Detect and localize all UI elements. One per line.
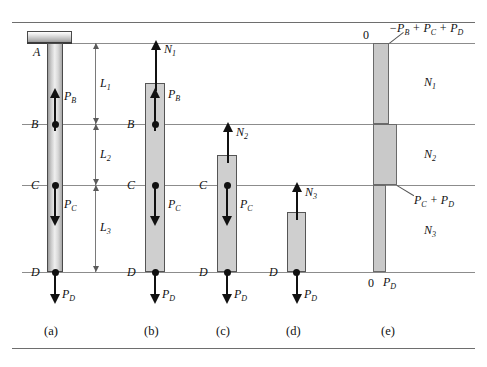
tick-D-d [280, 272, 286, 273]
axial-diagram-block-N3 [373, 185, 386, 272]
caption-c: (c) [216, 325, 230, 338]
figure-axial-force-diagram: A B C D PB PC PD L1 L2 [0, 0, 487, 367]
point-label-A-a: A [33, 46, 40, 58]
tick-C-b [138, 185, 144, 186]
axial-diagram-value-PD: PD [383, 276, 396, 288]
leader-line-segment2 [396, 185, 414, 196]
point-label-D-a: D [31, 266, 40, 278]
point-label-C-c: C [199, 179, 207, 191]
dimension-arrow-L1-top [93, 43, 99, 49]
axial-diagram-region-label-N2: N2 [424, 148, 436, 160]
load-label-PD-d: PD [304, 288, 317, 300]
level-line-B [22, 124, 475, 125]
point-label-B-a: B [31, 118, 38, 130]
point-label-D-b: D [127, 266, 136, 278]
bar-a-full [47, 43, 63, 272]
dimension-label-L2: L2 [100, 148, 111, 160]
point-label-C-b: C [127, 179, 135, 191]
axial-diagram-region-label-N1: N1 [424, 76, 436, 88]
load-label-PC-a: PC [64, 198, 77, 210]
point-label-B-b: B [127, 118, 134, 130]
axial-diagram-block-N1 [373, 43, 389, 124]
level-line-A [60, 43, 475, 44]
point-label-C-a: C [31, 179, 39, 191]
dimension-line-L1 [95, 43, 96, 124]
internal-force-label-N3: N3 [305, 186, 317, 198]
dimension-line-L3 [95, 185, 96, 272]
caption-a: (a) [44, 325, 58, 338]
axial-diagram-value-segment2: PC + PD [414, 194, 454, 206]
bar-d-segment [287, 212, 306, 272]
tick-B-b [138, 124, 144, 125]
load-label-PC-b: PC [168, 198, 181, 210]
dimension-line-L2 [95, 124, 96, 185]
dimension-label-L3: L3 [100, 221, 111, 233]
caption-b: (b) [144, 325, 159, 338]
dimension-arrow-L3-bottom [93, 266, 99, 272]
axial-diagram-block-N2 [373, 124, 397, 185]
point-label-D-d: D [269, 266, 278, 278]
dimension-arrow-L2-top [93, 124, 99, 130]
load-label-PD-c: PD [234, 288, 247, 300]
point-label-D-c: D [199, 266, 208, 278]
dimension-arrow-L3-top [93, 185, 99, 191]
internal-force-label-N1: N1 [164, 43, 176, 55]
level-line-C [22, 185, 475, 186]
axial-diagram-zero-label-bottom: 0 [368, 277, 374, 289]
load-label-PB-a: PB [64, 90, 76, 102]
internal-force-label-N2: N2 [236, 126, 248, 138]
tick-C-c [210, 185, 216, 186]
tick-D-b [138, 272, 144, 273]
load-label-PB-b: PB [168, 88, 180, 100]
load-label-PD-b: PD [162, 288, 175, 300]
axial-diagram-zero-label-top: 0 [363, 29, 369, 41]
load-label-PD-a: PD [62, 288, 75, 300]
level-line-D [22, 272, 475, 273]
tick-D-c [210, 272, 216, 273]
frame-line-bottom [12, 348, 475, 349]
caption-e: (e) [381, 325, 395, 338]
load-label-PC-c: PC [240, 198, 253, 210]
axial-diagram-region-label-N3: N3 [424, 224, 436, 236]
dimension-label-L1: L1 [100, 77, 111, 89]
axial-diagram-value-segment1: −PB + PC + PD [389, 22, 463, 34]
caption-d: (d) [286, 325, 301, 338]
